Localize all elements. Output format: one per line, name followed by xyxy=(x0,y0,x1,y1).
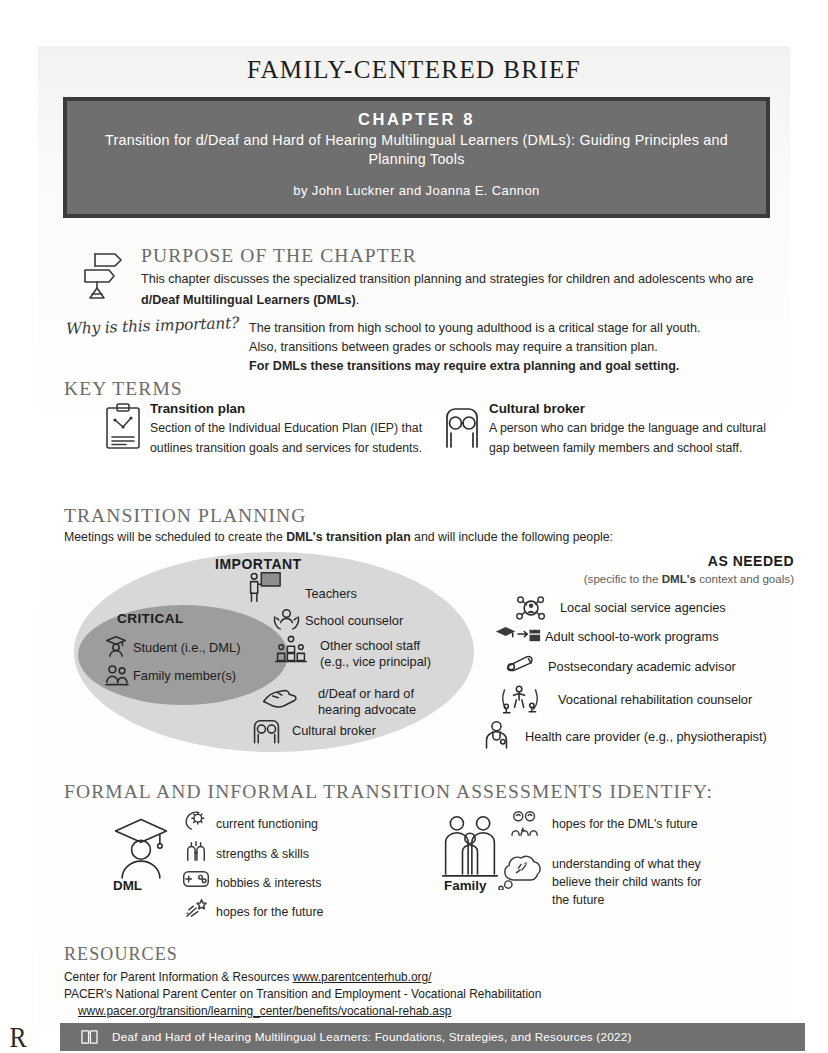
diploma-scroll-icon xyxy=(505,654,541,676)
key-term-body: Section of the Individual Education Plan… xyxy=(150,419,430,458)
assessment-item: hobbies & interests xyxy=(216,874,321,892)
publisher-mark: R xyxy=(10,1020,27,1053)
understand-line-1: understanding of what they xyxy=(552,855,770,873)
as-needed-item-label: Local social service agencies xyxy=(560,600,726,615)
as-needed-item-label: Health care provider (e.g., physiotherap… xyxy=(525,729,767,744)
signpost-icon xyxy=(75,246,131,302)
important-item-label: Teachers xyxy=(305,586,357,602)
key-term-body: A person who can bridge the language and… xyxy=(489,419,769,458)
why-line-3: For DMLs these transitions may require e… xyxy=(249,357,789,376)
why-line-2: Also, transitions between grades or scho… xyxy=(249,338,789,357)
network-person-icon xyxy=(515,594,548,622)
as-needed-label: AS NEEDED xyxy=(708,553,794,569)
important-item-label: Cultural broker xyxy=(292,723,376,739)
staff-line-2: (e.g., vice principal) xyxy=(320,654,431,670)
assessment-column-label: Family xyxy=(444,878,486,893)
important-item-advocate: d/Deaf or hard of hearing advocate xyxy=(318,686,416,718)
why-important-body: The transition from high school to young… xyxy=(249,319,789,376)
planning-sub-bold: DML's transition plan xyxy=(286,530,411,544)
as-needed-item-label: Postsecondary academic advisor xyxy=(548,659,736,674)
muscle-arm-icon xyxy=(184,840,208,862)
as-needed-sub-bold: DML's xyxy=(662,572,696,585)
cultural-broker-icon xyxy=(250,716,283,744)
as-needed-subtitle: (specific to the DML's context and goals… xyxy=(584,572,794,585)
critical-label: CRITICAL xyxy=(117,611,184,626)
assessment-item-multiline: understanding of what they believe their… xyxy=(552,855,770,909)
family-group-icon xyxy=(440,810,500,878)
chapter-authors: by John Luckner and Joanna E. Cannon xyxy=(67,183,766,198)
page-title: FAMILY-CENTERED BRIEF xyxy=(0,56,828,84)
family-hopes-icon xyxy=(509,810,542,837)
staff-line-1: Other school staff xyxy=(320,638,431,654)
why-line-1: The transition from high school to young… xyxy=(249,319,789,338)
transition-planning-subtitle: Meetings will be scheduled to create the… xyxy=(64,529,784,546)
resource-1-text: Center for Parent Information & Resource… xyxy=(64,970,289,984)
as-needed-item-label: Adult school-to-work programs xyxy=(545,629,719,644)
counselor-hands-icon xyxy=(272,605,301,631)
important-item-label: School counselor xyxy=(305,613,403,629)
family-pair-icon xyxy=(104,662,130,686)
as-needed-sub-lead: (specific to the xyxy=(584,572,662,585)
footer-text: Deaf and Hard of Hearing Multilingual Le… xyxy=(112,1030,632,1044)
resource-1-link[interactable]: www.parentcenterhub.org/ xyxy=(293,970,432,984)
chapter-number: CHAPTER 8 xyxy=(67,110,766,129)
assessment-item: hopes for the future xyxy=(216,903,323,921)
critical-item-label: Family member(s) xyxy=(133,668,236,683)
health-provider-icon xyxy=(481,720,512,749)
assessment-column-label: DML xyxy=(113,878,142,893)
shooting-star-icon xyxy=(184,898,210,918)
footer-bar: Deaf and Hard of Hearing Multilingual Le… xyxy=(60,1023,805,1051)
key-terms-heading: KEY TERMS xyxy=(64,378,183,400)
why-important-label: Why is this important? xyxy=(66,314,247,338)
as-needed-sub-tail: context and goals) xyxy=(696,572,794,585)
as-needed-item-label: Vocational rehabilitation counselor xyxy=(558,692,752,707)
planning-sub-tail: and will include the following people: xyxy=(411,530,613,544)
purpose-text-bold: d/Deaf Multilingual Learners (DMLs) xyxy=(141,293,356,307)
purpose-heading: PURPOSE OF THE CHAPTER xyxy=(141,245,417,267)
key-term-title: Transition plan xyxy=(150,400,430,418)
assessment-item: strengths & skills xyxy=(216,845,309,863)
key-term-transition-plan: Transition plan Section of the Individua… xyxy=(150,400,430,458)
teacher-board-icon xyxy=(246,570,282,604)
transition-planning-heading: TRANSITION PLANNING xyxy=(64,505,306,527)
understand-line-2: believe their child wants for xyxy=(552,873,770,891)
school-staff-icon xyxy=(274,633,308,663)
purpose-text-lead: This chapter discusses the specialized t… xyxy=(141,272,754,286)
cap-to-briefcase-icon xyxy=(495,624,541,646)
advocate-line-1: d/Deaf or hard of xyxy=(318,686,416,702)
key-term-title: Cultural broker xyxy=(489,400,769,418)
resource-line-2: PACER's National Parent Center on Transi… xyxy=(64,986,541,1002)
game-controller-icon xyxy=(182,869,210,889)
assessment-item: hopes for the DML's future xyxy=(552,815,698,833)
planning-sub-lead: Meetings will be scheduled to create the xyxy=(64,530,286,544)
brief-page: FAMILY-CENTERED BRIEF CHAPTER 8 Transiti… xyxy=(0,0,828,1053)
resources-heading: RESOURCES xyxy=(64,944,178,965)
chapter-banner: CHAPTER 8 Transition for d/Deaf and Hard… xyxy=(63,97,770,218)
advocate-line-2: hearing advocate xyxy=(318,702,416,718)
chapter-title: Transition for d/Deaf and Hard of Hearin… xyxy=(93,131,740,169)
signing-hands-icon xyxy=(260,682,300,710)
cultural-broker-icon xyxy=(441,403,483,449)
purpose-body: This chapter discusses the specialized t… xyxy=(141,269,781,311)
critical-item-label: Student (i.e., DML) xyxy=(133,640,240,655)
resource-2-link[interactable]: www.pacer.org/transition/learning_center… xyxy=(78,1003,451,1019)
assessments-heading: FORMAL AND INFORMAL TRANSITION ASSESSMEN… xyxy=(64,781,713,803)
head-gear-icon xyxy=(184,810,208,830)
key-term-cultural-broker: Cultural broker A person who can bridge … xyxy=(489,400,769,458)
clipboard-icon xyxy=(104,403,142,451)
open-book-icon xyxy=(80,1029,99,1045)
assessment-item: current functioning xyxy=(216,815,318,833)
important-item-staff: Other school staff (e.g., vice principal… xyxy=(320,638,431,670)
rehab-counselor-icon xyxy=(499,684,541,714)
graduate-icon xyxy=(104,634,128,658)
purpose-text-tail: . xyxy=(356,293,360,307)
understand-line-3: the future xyxy=(552,891,770,909)
thought-cloud-icon xyxy=(496,848,548,890)
resource-line-1: Center for Parent Information & Resource… xyxy=(64,969,432,985)
graduate-large-icon xyxy=(108,812,174,880)
